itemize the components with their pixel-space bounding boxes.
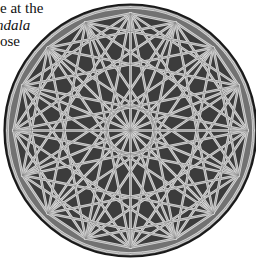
mandala-figure [0,0,256,263]
